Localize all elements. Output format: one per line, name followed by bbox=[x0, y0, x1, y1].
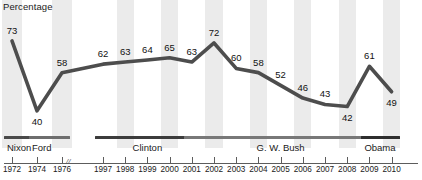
data-point-label: 43 bbox=[320, 88, 331, 99]
x-axis-tick bbox=[325, 157, 326, 163]
x-axis-year-label: 2009 bbox=[360, 165, 378, 174]
x-axis-tick bbox=[214, 157, 215, 163]
x-axis: // 1972197419761997199819992000200120022… bbox=[0, 157, 422, 180]
x-axis-tick bbox=[303, 157, 304, 163]
data-point-label: 72 bbox=[209, 27, 220, 38]
data-point-label: 65 bbox=[164, 42, 175, 53]
era-label: Ford bbox=[32, 142, 52, 153]
x-axis-year-label: 2002 bbox=[205, 165, 223, 174]
x-axis-year-label: 2004 bbox=[249, 165, 267, 174]
x-axis-tick bbox=[369, 157, 370, 163]
series-line-plot bbox=[0, 0, 422, 148]
data-point-label: 73 bbox=[7, 25, 18, 36]
x-axis-year-label: 2006 bbox=[294, 165, 312, 174]
x-axis-year-label: 2010 bbox=[382, 165, 400, 174]
x-axis-year-label: 1997 bbox=[94, 165, 112, 174]
data-point-label: 64 bbox=[142, 44, 153, 55]
data-point-label: 42 bbox=[342, 112, 353, 123]
x-axis-tick bbox=[258, 157, 259, 163]
x-axis-year-label: 1972 bbox=[3, 165, 21, 174]
x-axis-tick bbox=[125, 157, 126, 163]
era-bar-obama bbox=[361, 136, 399, 139]
percentage-line-chart: Percentage 73405862636465637260585246434… bbox=[0, 0, 422, 180]
x-axis-year-label: 2000 bbox=[160, 165, 178, 174]
data-point-label: 49 bbox=[386, 97, 397, 108]
x-axis-tick bbox=[347, 157, 348, 163]
x-axis-tick bbox=[170, 157, 171, 163]
data-point-label: 63 bbox=[187, 46, 198, 57]
data-point-label: 62 bbox=[98, 48, 109, 59]
x-axis-tick bbox=[62, 157, 63, 163]
x-axis-tick bbox=[103, 157, 104, 163]
data-point-label: 63 bbox=[120, 46, 131, 57]
x-axis-year-label: 2003 bbox=[227, 165, 245, 174]
x-axis-tick bbox=[37, 157, 38, 163]
era-label: Clinton bbox=[133, 142, 163, 153]
x-axis-year-label: 2005 bbox=[271, 165, 289, 174]
era-bar-g-w-bush bbox=[184, 136, 378, 139]
x-axis-year-label: 2007 bbox=[316, 165, 334, 174]
data-point-label: 58 bbox=[253, 57, 264, 68]
x-axis-tick bbox=[192, 157, 193, 163]
x-axis-tick bbox=[392, 157, 393, 163]
data-point-label: 46 bbox=[298, 82, 309, 93]
x-axis-tick bbox=[281, 157, 282, 163]
data-point-label: 61 bbox=[364, 50, 375, 61]
era-label: Obama bbox=[364, 142, 395, 153]
y-axis-title: Percentage bbox=[3, 1, 53, 12]
x-axis-year-label: 1974 bbox=[28, 165, 46, 174]
x-axis-tick bbox=[12, 157, 13, 163]
percentage-series-line bbox=[12, 41, 392, 111]
x-axis-year-label: 2008 bbox=[338, 165, 356, 174]
data-point-label: 40 bbox=[32, 116, 43, 127]
x-axis-year-label: 1999 bbox=[138, 165, 156, 174]
era-bar-ford bbox=[29, 136, 70, 139]
era-label: G. W. Bush bbox=[257, 142, 305, 153]
data-point-label: 58 bbox=[57, 57, 68, 68]
era-label: Nixon bbox=[7, 142, 31, 153]
x-axis-year-label: 1998 bbox=[116, 165, 134, 174]
data-point-label: 52 bbox=[275, 69, 286, 80]
x-axis-year-label: 2001 bbox=[183, 165, 201, 174]
x-axis-tick bbox=[147, 157, 148, 163]
x-axis-tick bbox=[236, 157, 237, 163]
data-point-label: 60 bbox=[231, 52, 242, 63]
x-axis-year-label: 1976 bbox=[53, 165, 71, 174]
